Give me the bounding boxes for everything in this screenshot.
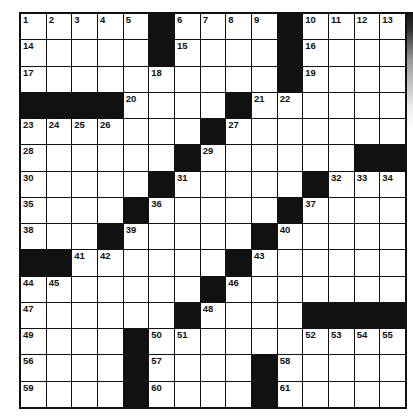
grid-cell[interactable]: 48 [201, 303, 226, 328]
grid-cell[interactable]: 4 [98, 14, 123, 39]
grid-cell[interactable] [380, 224, 405, 249]
grid-cell[interactable] [98, 277, 123, 302]
grid-cell[interactable]: 38 [21, 224, 46, 249]
grid-cell[interactable]: 44 [21, 277, 46, 302]
grid-cell[interactable] [252, 277, 277, 302]
grid-cell[interactable]: 41 [72, 250, 97, 275]
grid-cell[interactable] [47, 172, 72, 197]
grid-cell[interactable]: 39 [124, 224, 149, 249]
grid-cell[interactable] [355, 224, 380, 249]
grid-cell[interactable] [329, 250, 354, 275]
grid-cell[interactable] [355, 119, 380, 144]
grid-cell[interactable] [124, 172, 149, 197]
grid-cell[interactable] [72, 329, 97, 354]
grid-cell[interactable]: 55 [380, 329, 405, 354]
grid-cell[interactable] [226, 382, 251, 407]
grid-cell[interactable] [252, 145, 277, 170]
grid-cell[interactable] [98, 329, 123, 354]
grid-cell[interactable] [329, 198, 354, 223]
grid-cell[interactable]: 2 [47, 14, 72, 39]
grid-cell[interactable]: 22 [278, 93, 303, 118]
grid-cell[interactable] [47, 145, 72, 170]
grid-cell[interactable] [124, 277, 149, 302]
grid-cell[interactable] [329, 355, 354, 380]
grid-cell[interactable] [47, 303, 72, 328]
grid-cell[interactable] [47, 67, 72, 92]
grid-cell[interactable] [72, 303, 97, 328]
grid-cell[interactable] [201, 382, 226, 407]
grid-cell[interactable] [201, 172, 226, 197]
grid-cell[interactable] [329, 93, 354, 118]
grid-cell[interactable]: 53 [329, 329, 354, 354]
grid-cell[interactable] [201, 198, 226, 223]
grid-cell[interactable]: 14 [21, 40, 46, 65]
grid-cell[interactable] [278, 303, 303, 328]
grid-cell[interactable] [278, 145, 303, 170]
grid-cell[interactable] [72, 145, 97, 170]
grid-cell[interactable] [303, 93, 328, 118]
grid-cell[interactable] [303, 382, 328, 407]
grid-cell[interactable] [355, 198, 380, 223]
grid-cell[interactable]: 18 [149, 67, 174, 92]
grid-cell[interactable] [329, 119, 354, 144]
grid-cell[interactable]: 25 [72, 119, 97, 144]
grid-cell[interactable] [175, 93, 200, 118]
grid-cell[interactable] [124, 250, 149, 275]
grid-cell[interactable] [149, 303, 174, 328]
grid-cell[interactable] [175, 382, 200, 407]
grid-cell[interactable] [201, 329, 226, 354]
grid-cell[interactable]: 20 [124, 93, 149, 118]
grid-cell[interactable]: 56 [21, 355, 46, 380]
grid-cell[interactable] [303, 277, 328, 302]
grid-cell[interactable] [380, 119, 405, 144]
grid-cell[interactable] [355, 250, 380, 275]
grid-cell[interactable]: 37 [303, 198, 328, 223]
grid-cell[interactable] [201, 355, 226, 380]
grid-cell[interactable] [380, 355, 405, 380]
grid-cell[interactable] [124, 119, 149, 144]
grid-cell[interactable]: 36 [149, 198, 174, 223]
grid-cell[interactable] [149, 224, 174, 249]
grid-cell[interactable] [226, 40, 251, 65]
grid-cell[interactable] [149, 93, 174, 118]
grid-cell[interactable] [98, 303, 123, 328]
grid-cell[interactable]: 50 [149, 329, 174, 354]
grid-cell[interactable]: 60 [149, 382, 174, 407]
grid-cell[interactable] [226, 67, 251, 92]
grid-cell[interactable] [72, 224, 97, 249]
grid-cell[interactable] [175, 355, 200, 380]
grid-cell[interactable]: 46 [226, 277, 251, 302]
grid-cell[interactable]: 23 [21, 119, 46, 144]
grid-cell[interactable] [278, 277, 303, 302]
grid-cell[interactable] [72, 355, 97, 380]
grid-cell[interactable]: 12 [355, 14, 380, 39]
grid-cell[interactable] [252, 329, 277, 354]
grid-cell[interactable] [226, 224, 251, 249]
grid-cell[interactable] [72, 172, 97, 197]
grid-cell[interactable]: 51 [175, 329, 200, 354]
grid-cell[interactable]: 33 [355, 172, 380, 197]
grid-cell[interactable] [303, 224, 328, 249]
grid-cell[interactable] [380, 382, 405, 407]
grid-cell[interactable]: 3 [72, 14, 97, 39]
grid-cell[interactable] [201, 40, 226, 65]
grid-cell[interactable]: 29 [201, 145, 226, 170]
grid-cell[interactable] [226, 303, 251, 328]
grid-cell[interactable] [175, 277, 200, 302]
grid-cell[interactable] [226, 145, 251, 170]
grid-cell[interactable] [355, 277, 380, 302]
grid-cell[interactable] [380, 198, 405, 223]
grid-cell[interactable]: 26 [98, 119, 123, 144]
grid-cell[interactable] [98, 67, 123, 92]
grid-cell[interactable] [252, 172, 277, 197]
grid-cell[interactable] [303, 355, 328, 380]
grid-cell[interactable] [252, 119, 277, 144]
grid-cell[interactable]: 42 [98, 250, 123, 275]
grid-cell[interactable] [124, 67, 149, 92]
grid-cell[interactable]: 1 [21, 14, 46, 39]
grid-cell[interactable] [278, 250, 303, 275]
grid-cell[interactable] [47, 355, 72, 380]
grid-cell[interactable] [175, 224, 200, 249]
grid-cell[interactable] [149, 277, 174, 302]
grid-cell[interactable]: 10 [303, 14, 328, 39]
